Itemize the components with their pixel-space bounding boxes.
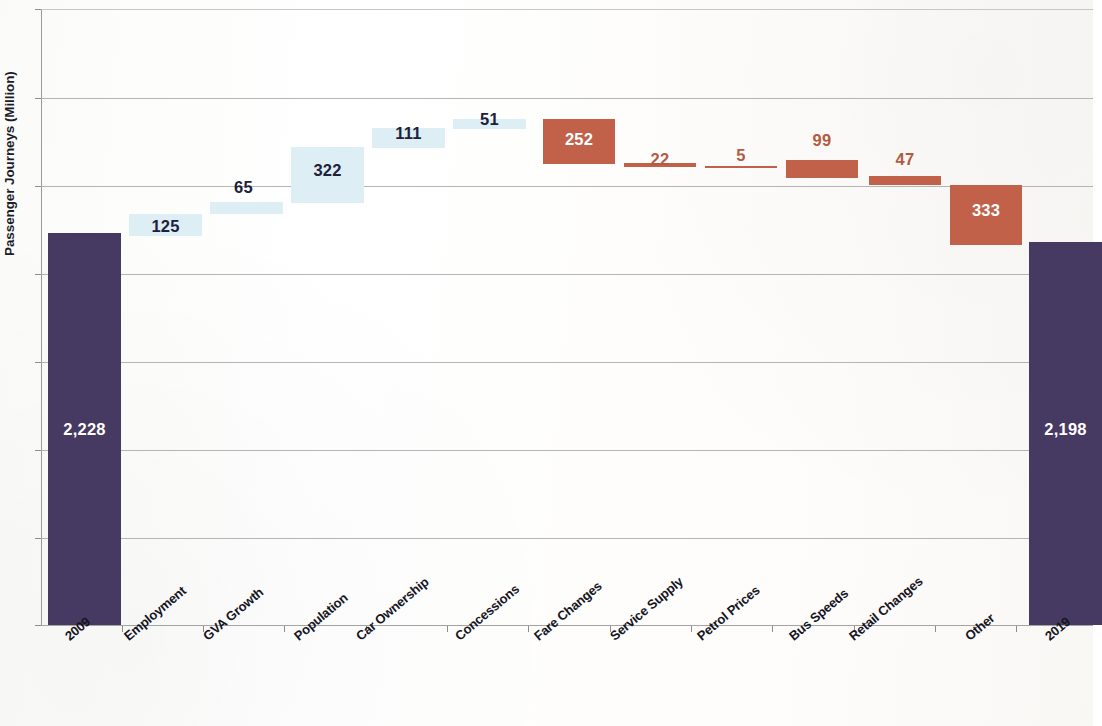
bar-value-label: 5 [705,146,777,165]
y-axis-tick [35,625,41,626]
x-axis-tick [528,626,529,632]
y-axis-tick [35,98,41,99]
gridline [41,362,1093,363]
gridline [41,98,1093,99]
y-axis-tick [35,362,41,363]
x-axis-tick [284,626,285,632]
bar-retail-changes [869,176,941,185]
bar-value-label: 2,228 [48,420,121,439]
y-axis-tick [35,274,41,275]
bar-bus-speeds [786,160,858,178]
gridline [41,186,1093,187]
gridline [41,9,1093,10]
y-axis-tick [35,9,41,10]
bar-petrol-prices [705,166,777,168]
x-axis-tick [935,626,936,632]
bar-value-label: 111 [372,124,445,143]
bar-value-label: 51 [453,110,526,129]
y-axis-tick [35,538,41,539]
bar-value-label: 99 [786,131,858,150]
gridline [41,450,1093,451]
y-axis-tick [35,186,41,187]
bar-value-label: 125 [129,217,202,236]
gridline [41,274,1093,275]
bar-value-label: 252 [543,130,615,149]
bar-value-label: 22 [624,150,696,169]
bar-value-label: 322 [291,161,364,180]
y-axis-tick [35,450,41,451]
y-axis-title: Passenger Journeys (Million) [2,26,17,256]
bar-value-label: 47 [869,150,941,169]
bar-value-label: 65 [207,178,280,197]
bar-gva-growth [210,202,283,214]
x-axis-tick [447,626,448,632]
x-axis-tick [1016,626,1017,632]
plot-area: 2,228125653221115125222599473332,198 [41,9,1093,626]
bar-value-label: 333 [950,201,1022,220]
x-axis-tick [772,626,773,632]
gridline [41,538,1093,539]
bar-value-label: 2,198 [1029,420,1102,439]
x-axis-tick [691,626,692,632]
